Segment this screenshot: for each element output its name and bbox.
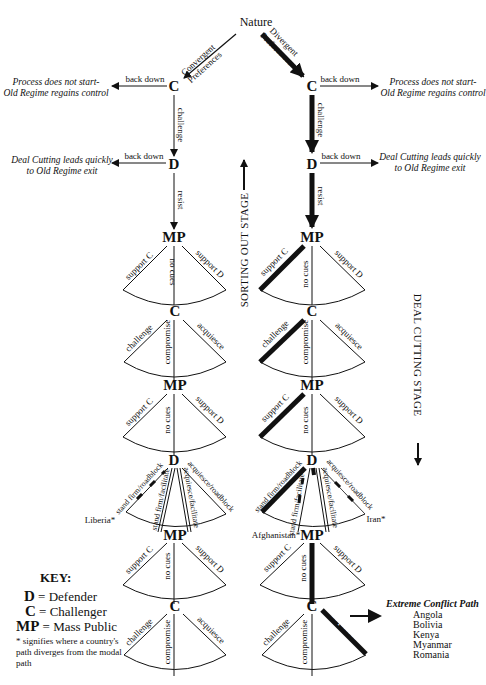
key-meaning: = Challenger xyxy=(39,604,107,619)
mass-public-node-right-4: MP xyxy=(300,527,323,543)
compromise-label-r2: compromise xyxy=(300,320,310,365)
process-outcome-right-line1: Process does not start- xyxy=(389,77,477,87)
mass-public-node-right-2: MP xyxy=(300,377,323,393)
challenge-label-r5: challenge xyxy=(260,616,291,647)
mass-public-node-left-1: MP xyxy=(162,229,185,245)
divergent-label: DivergentPreferences xyxy=(259,23,303,67)
no-cues-label-r4: no cues xyxy=(298,554,308,582)
afghanistan-marker: Afghanistan* xyxy=(252,530,301,540)
key-meaning: = Mass Public xyxy=(43,619,118,634)
no-cues-label-l1: no cues xyxy=(168,258,178,286)
challenger-node-right-5: C xyxy=(307,598,318,614)
key-note: * signifies where a country's path diver… xyxy=(16,636,128,669)
key-symbol: D xyxy=(24,588,35,604)
deal-outcome-right-line1: Deal Cutting leads quickly xyxy=(378,152,481,162)
deal-outcome-left-line2: to Old Regime exit xyxy=(27,166,98,176)
mass-public-node-right-1: MP xyxy=(300,229,323,245)
extreme-conflict-path: Extreme Conflict Path Angola Bolivia Ken… xyxy=(386,598,479,660)
liberia-marker: Liberia* xyxy=(85,515,116,525)
defender-node-right-1: D xyxy=(307,156,318,172)
compromise-label-l2: compromise xyxy=(162,320,172,365)
defender-node-left-1: D xyxy=(169,156,180,172)
extreme-country: Romania xyxy=(413,650,479,660)
sorting-out-stage-label: SORTING OUT STAGE xyxy=(238,193,250,308)
challenger-node-left-5: C xyxy=(170,598,181,614)
resist-label-left: resist xyxy=(176,191,186,210)
key-symbol: MP xyxy=(16,618,39,634)
key-symbol: C xyxy=(25,603,36,619)
iran-marker: Iran* xyxy=(367,514,386,524)
challenger-node-right-2: C xyxy=(307,303,318,319)
deal-outcome-right-line2: to Old Regime exit xyxy=(395,163,466,173)
challenger-node-right-1: C xyxy=(307,78,318,94)
compromise-label-r5: compromise xyxy=(299,620,309,665)
compromise-label-l5: compromise xyxy=(162,620,172,665)
challenge-label-right: challenge xyxy=(316,103,326,137)
support-c-label-l1: support C xyxy=(123,250,155,282)
legend-key: KEY: D = Defender C = Challenger MP = Ma… xyxy=(16,570,136,669)
support-c-label-l2: support C xyxy=(123,396,155,428)
back-down-label-right-2: back down xyxy=(321,151,361,161)
resist-label-right: resist xyxy=(316,187,326,206)
defender-node-right-3: D xyxy=(307,452,318,468)
deal-outcome-left-line1: Deal Cutting leads quickly xyxy=(10,155,113,165)
no-cues-label-l4: no cues xyxy=(162,552,172,580)
mass-public-node-left-4: MP xyxy=(163,527,186,543)
key-row-mass-public: MP = Mass Public xyxy=(16,619,136,634)
support-d-label-l1: support D xyxy=(194,248,227,281)
challenger-node-left-1: C xyxy=(169,78,180,94)
challenge-label-l2: challenge xyxy=(123,322,154,353)
key-meaning: = Defender xyxy=(38,589,97,604)
back-down-label-right-1: back down xyxy=(320,74,360,84)
defender-node-left-3: D xyxy=(169,452,180,468)
no-cues-label-r2: no cues xyxy=(300,406,310,434)
key-row-defender: D = Defender xyxy=(24,589,136,604)
key-row-challenger: C = Challenger xyxy=(25,604,136,619)
convergent-label: ConvergentPreferences xyxy=(179,42,224,85)
challenge-label-left: challenge xyxy=(176,108,186,142)
key-title: KEY: xyxy=(40,570,136,586)
process-outcome-left-line1: Process does not start- xyxy=(12,77,100,87)
back-down-label-left-2: back down xyxy=(124,151,164,161)
process-outcome-right-line2: Old Regime regains control xyxy=(380,88,485,98)
no-cues-label-r1: no cues xyxy=(300,260,310,288)
extreme-conflict-title: Extreme Conflict Path xyxy=(386,598,479,609)
back-down-label-left-1: back down xyxy=(125,74,165,84)
challenger-node-left-2: C xyxy=(170,303,181,319)
mass-public-node-left-2: MP xyxy=(163,377,186,393)
process-outcome-left-line2: Old Regime regains control xyxy=(3,88,108,98)
nature-node: Nature xyxy=(240,15,273,29)
deal-cutting-stage-label: DEAL CUTTING STAGE xyxy=(412,294,424,417)
no-cues-label-l2: no cues xyxy=(162,406,172,434)
